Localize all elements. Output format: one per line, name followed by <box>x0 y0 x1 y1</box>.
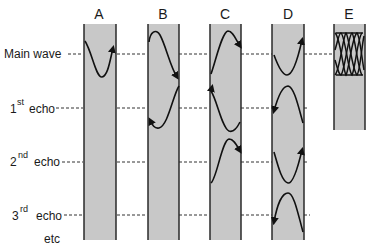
svg-text:st: st <box>17 97 25 107</box>
svg-text:echo: echo <box>36 209 62 223</box>
row-label-3rd-echo: 3 rd echo <box>12 204 62 223</box>
column-label-d: D <box>283 6 293 22</box>
column-label-b: B <box>158 6 167 22</box>
row-label-main-wave: Main wave <box>4 47 62 61</box>
tube-c <box>210 24 241 240</box>
svg-text:1: 1 <box>10 102 17 116</box>
row-label-2nd-echo: 2 nd echo <box>10 150 60 169</box>
column-label-a: A <box>94 6 104 22</box>
tube-b <box>148 24 179 240</box>
svg-text:nd: nd <box>18 150 28 160</box>
row-label-etc: etc <box>44 232 60 245</box>
column-label-c: C <box>220 6 230 22</box>
svg-text:2: 2 <box>10 155 17 169</box>
svg-text:3: 3 <box>12 209 19 223</box>
svg-text:Main wave: Main wave <box>4 47 62 61</box>
row-label-1st-echo: 1 st echo <box>10 97 55 116</box>
svg-text:echo: echo <box>29 102 55 116</box>
svg-text:echo: echo <box>34 155 60 169</box>
wave-echo-diagram: A B C D E <box>0 0 368 245</box>
column-label-e: E <box>344 6 353 22</box>
svg-text:rd: rd <box>20 204 28 214</box>
